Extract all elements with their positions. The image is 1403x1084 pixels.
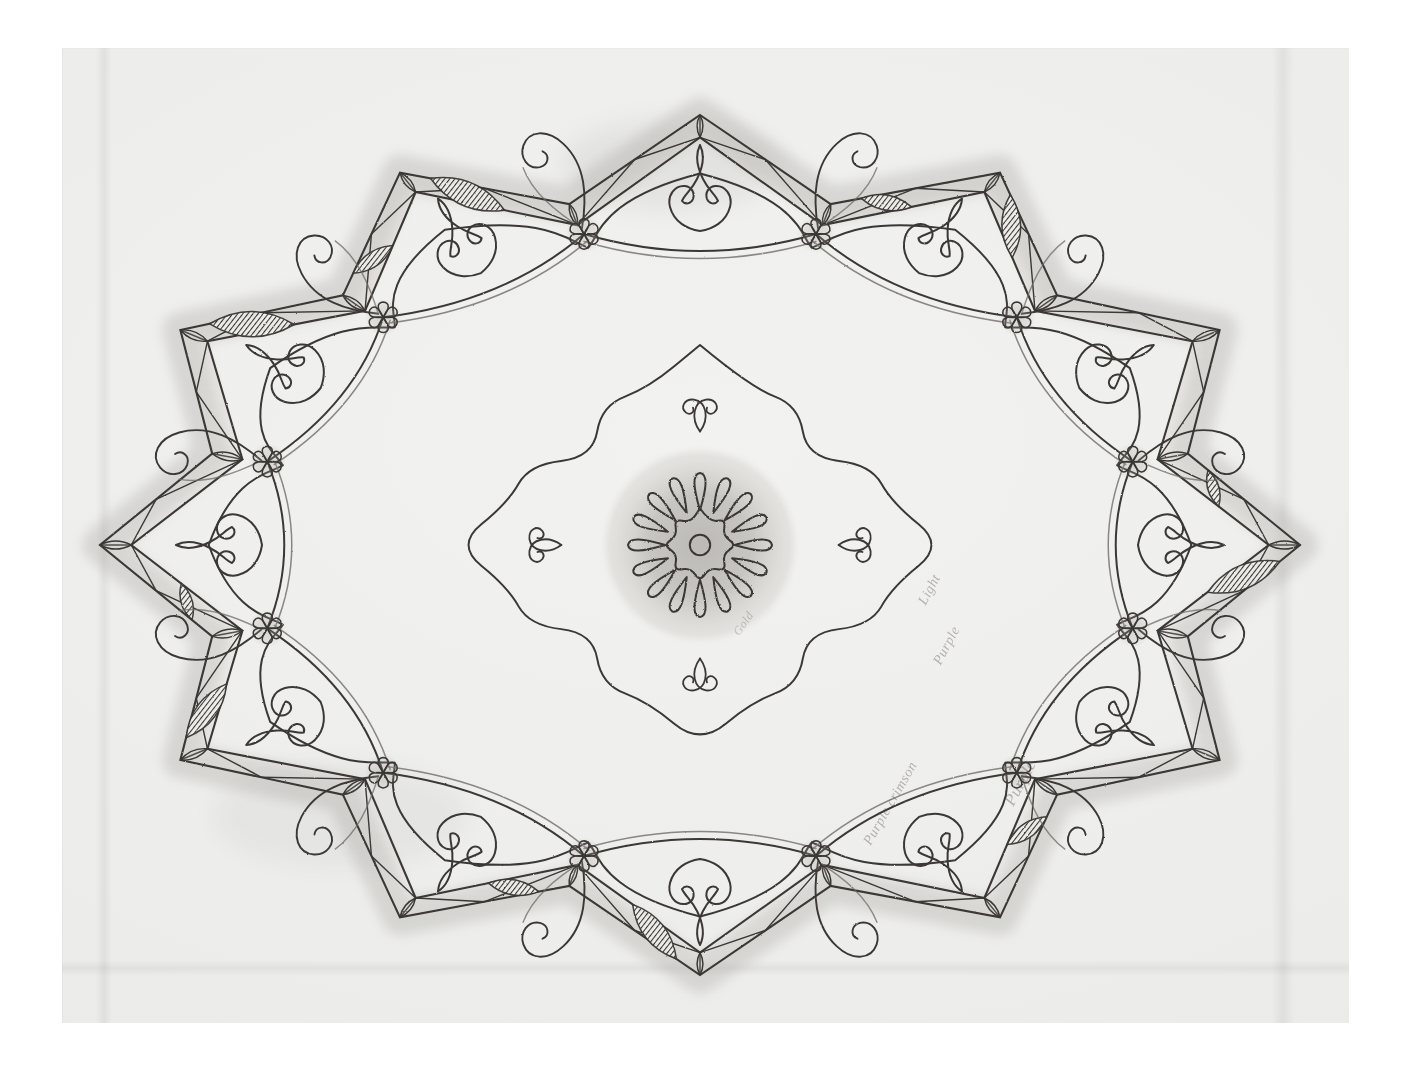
central-rosette-layer (606, 451, 793, 638)
ornament-drawing (0, 0, 1403, 1084)
drawing-canvas: Light Purple Purple crimson Purple Gold (0, 0, 1403, 1084)
